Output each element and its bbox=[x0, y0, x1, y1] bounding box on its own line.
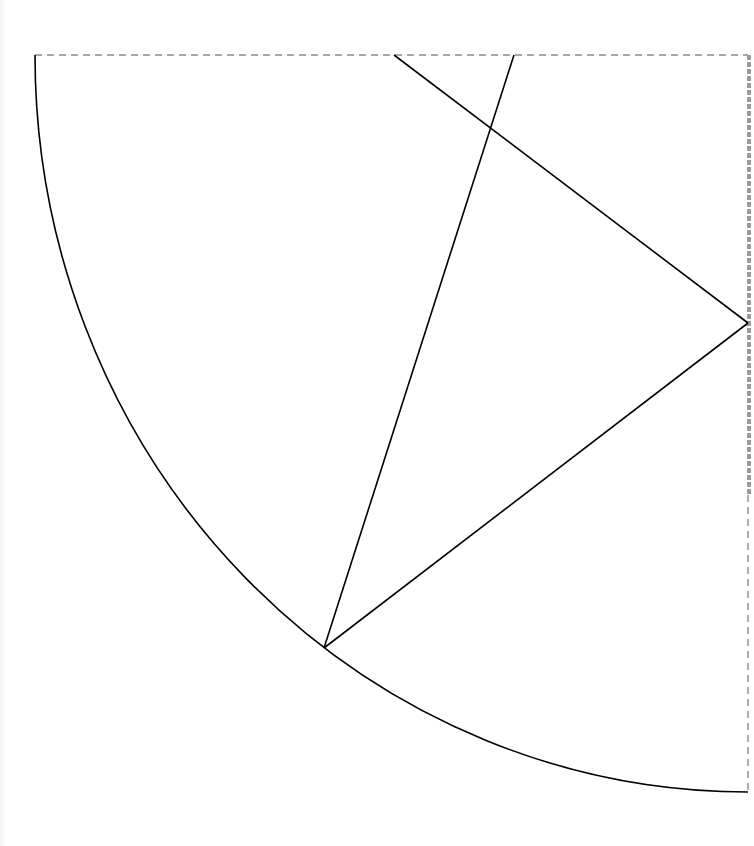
diagram-canvas bbox=[0, 0, 754, 846]
segment-b bbox=[324, 323, 748, 648]
segment-a bbox=[394, 55, 748, 323]
geometry-diagram bbox=[0, 0, 754, 846]
segment-c bbox=[324, 55, 514, 648]
quarter-circle-arc bbox=[35, 55, 748, 792]
